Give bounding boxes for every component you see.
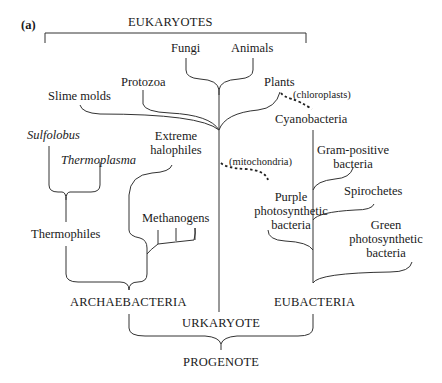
thermoplasma-branch	[66, 162, 100, 222]
gram-positive-label: Gram-positive bacteria	[315, 143, 391, 171]
sulfolobus-label: Sulfolobus	[27, 128, 80, 142]
purple-photosynthetic-label: Purple photosynthetic bacteria	[253, 190, 329, 232]
plants-branch	[219, 92, 280, 130]
purple-photosynthetic-branch	[268, 230, 313, 250]
methanogens-label: Methanogens	[142, 211, 209, 225]
fungi-label: Fungi	[171, 41, 200, 55]
archaebacteria-label: ARCHAEBACTERIA	[70, 295, 187, 309]
fungi-branch	[186, 58, 219, 95]
thermophiles-label: Thermophiles	[31, 227, 100, 241]
chloroplasts-annotation: (chloroplasts)	[293, 88, 351, 102]
eukaryotes-label: EUKARYOTES	[128, 15, 213, 29]
phylogenetic-tree-diagram: (a) EUKARYOTES Fungi Animals Protozoa Sl…	[0, 0, 442, 383]
slime-molds-branch	[80, 105, 219, 130]
cyanobacteria-label: Cyanobacteria	[275, 112, 347, 126]
protozoa-label: Protozoa	[121, 75, 165, 89]
thermophiles-stem	[66, 246, 129, 290]
plants-label: Plants	[264, 75, 295, 89]
animals-label: Animals	[231, 41, 273, 55]
green-photosynthetic-label: Green photosynthetic bacteria	[344, 218, 428, 260]
thermoplasma-label: Thermoplasma	[61, 153, 136, 167]
green-photosynthetic-branch	[313, 262, 412, 283]
extreme-halophiles-label: Extreme halophiles	[148, 129, 204, 157]
spirochetes-label: Spirochetes	[344, 184, 402, 198]
panel-label: (a)	[21, 18, 36, 32]
halophiles-branch	[129, 165, 172, 290]
slime-molds-label: Slime molds	[48, 89, 111, 103]
eubacteria-label: EUBACTERIA	[274, 295, 355, 309]
mitochondria-annotation: (mitochondria)	[229, 155, 292, 169]
progenote-label: PROGENOTE	[183, 355, 259, 369]
urkaryote-label: URKARYOTE	[182, 316, 260, 330]
methanogens-fan	[147, 228, 195, 254]
animals-branch	[219, 58, 253, 90]
